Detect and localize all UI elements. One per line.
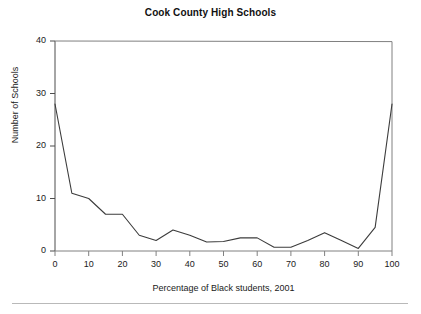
y-tick-label-0: 0 xyxy=(24,245,46,255)
x-tick-label-0: 0 xyxy=(42,259,68,269)
y-tick-label-10: 10 xyxy=(24,193,46,203)
x-tick-label-40: 40 xyxy=(177,259,203,269)
y-axis-ticks xyxy=(50,41,55,251)
x-tick-label-30: 30 xyxy=(143,259,169,269)
x-tick-label-70: 70 xyxy=(278,259,304,269)
x-tick-label-10: 10 xyxy=(76,259,102,269)
axis-frame xyxy=(55,41,392,251)
x-axis-label: Percentage of Black students, 2001 xyxy=(55,283,392,293)
chart-figure: Cook County High Schools Number of Schoo… xyxy=(0,0,421,314)
x-axis-ticks xyxy=(55,251,392,256)
y-tick-label-30: 30 xyxy=(24,88,46,98)
x-tick-label-50: 50 xyxy=(211,259,237,269)
x-tick-label-80: 80 xyxy=(312,259,338,269)
x-tick-label-20: 20 xyxy=(109,259,135,269)
x-tick-label-100: 100 xyxy=(379,259,405,269)
x-tick-label-90: 90 xyxy=(345,259,371,269)
data-series-line xyxy=(55,104,392,248)
footer-divider xyxy=(12,303,408,304)
y-tick-label-20: 20 xyxy=(24,140,46,150)
y-tick-label-40: 40 xyxy=(24,35,46,45)
x-tick-label-60: 60 xyxy=(244,259,270,269)
